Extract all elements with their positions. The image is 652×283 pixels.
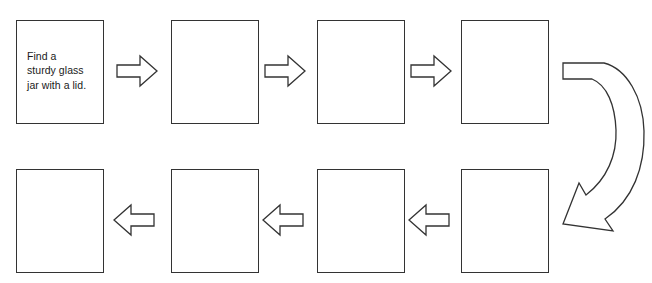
arrow-right-icon-3	[410, 54, 452, 88]
flowchart-box-1[interactable]: Find a sturdy glass jar with a lid.	[16, 20, 104, 124]
flowchart-box-5[interactable]	[16, 169, 104, 273]
arrow-right-icon-2	[264, 54, 306, 88]
arrow-right-shape	[117, 56, 157, 86]
flowchart-canvas: Find a sturdy glass jar with a lid.	[0, 0, 652, 283]
flowchart-box-8[interactable]	[461, 169, 549, 273]
arrow-left-shape	[263, 205, 303, 235]
arrow-left-shape	[409, 205, 449, 235]
arrow-right-shape	[411, 56, 451, 86]
curved-arrow-icon	[555, 55, 652, 235]
curved-arrow-shape	[563, 63, 644, 231]
arrow-right-shape	[265, 56, 305, 86]
flowchart-box-4[interactable]	[461, 20, 549, 124]
flowchart-box-7[interactable]	[317, 169, 405, 273]
arrow-left-icon-1	[113, 203, 155, 237]
flowchart-box-1-text: Find a sturdy glass jar with a lid.	[27, 49, 97, 92]
flowchart-box-6[interactable]	[171, 169, 259, 273]
flowchart-box-2[interactable]	[171, 20, 259, 124]
arrow-right-icon-1	[116, 54, 158, 88]
arrow-left-shape	[114, 205, 154, 235]
flowchart-box-3[interactable]	[317, 20, 405, 124]
arrow-left-icon-3	[408, 203, 450, 237]
arrow-left-icon-2	[262, 203, 304, 237]
